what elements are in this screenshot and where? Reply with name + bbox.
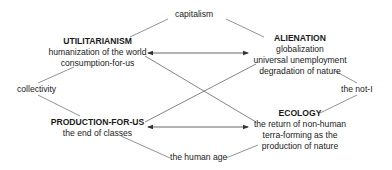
node-ecology: ECOLOGY the return of non-human terra-fo… — [250, 108, 350, 152]
node-line: consumption-for-us — [45, 58, 150, 69]
node-line: globalization — [250, 44, 350, 55]
node-line: the return of non-human — [250, 119, 350, 130]
node-line: humanization of the world — [45, 47, 150, 58]
node-utilitarianism: UTILITARIANISM humanization of the world… — [45, 36, 150, 69]
node-alienation: ALIENATION globalization universal unemp… — [250, 33, 350, 77]
node-line: universal unemployment — [250, 55, 350, 66]
term-not-i: the not-I — [341, 84, 373, 95]
term-capitalism: capitalism — [175, 9, 213, 20]
node-line: degradation of nature — [250, 66, 350, 77]
term-human-age: the human age — [170, 152, 227, 163]
node-line: the end of classes — [50, 128, 145, 139]
term-collectivity: collectivity — [17, 84, 56, 95]
node-title: PRODUCTION-FOR-US — [50, 117, 145, 128]
node-title: UTILITARIANISM — [45, 36, 150, 47]
node-title: ALIENATION — [250, 33, 350, 44]
node-line: terra-forming as the — [250, 130, 350, 141]
node-production-for-us: PRODUCTION-FOR-US the end of classes — [50, 117, 145, 139]
node-title: ECOLOGY — [250, 108, 350, 119]
node-line: production of nature — [250, 141, 350, 152]
